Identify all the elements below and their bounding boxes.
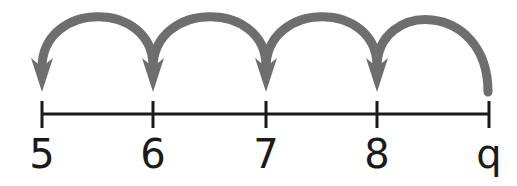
tick-label-6: 6 — [140, 134, 165, 174]
tick-label-9: q — [476, 134, 501, 174]
jump-arc-9-to-8 — [377, 20, 488, 92]
jump-arc-6-to-5 — [42, 17, 153, 68]
tick-label-8: 8 — [364, 134, 389, 174]
tick-label-7: 7 — [253, 134, 278, 174]
tick-label-5: 5 — [29, 134, 54, 174]
jump-arc-7-to-6 — [153, 17, 266, 68]
jump-arc-8-to-7 — [266, 17, 377, 68]
